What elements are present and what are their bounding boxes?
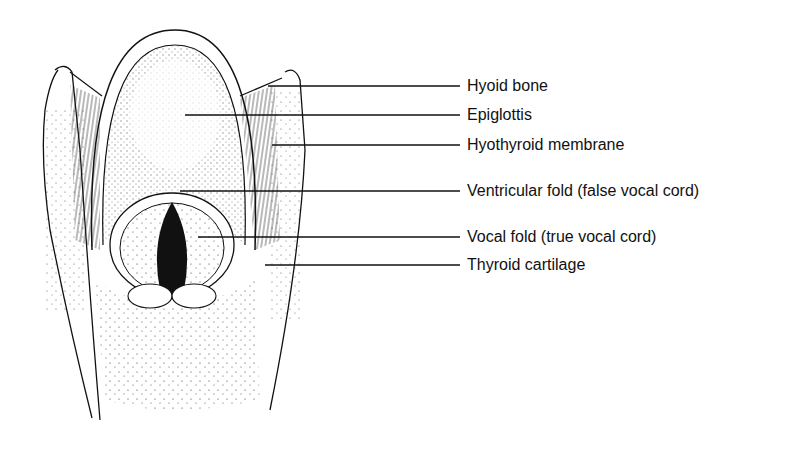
label-ventricular-fold: Ventricular fold (false vocal cord) [467,182,699,200]
label-epiglottis: Epiglottis [467,106,532,124]
label-hyothyroid-membrane: Hyothyroid membrane [467,136,624,154]
larynx-illustration [0,0,803,449]
label-thyroid-cartilage: Thyroid cartilage [467,256,585,274]
label-hyoid-bone: Hyoid bone [467,77,548,95]
glottis [110,193,234,308]
label-vocal-fold: Vocal fold (true vocal cord) [467,228,656,246]
